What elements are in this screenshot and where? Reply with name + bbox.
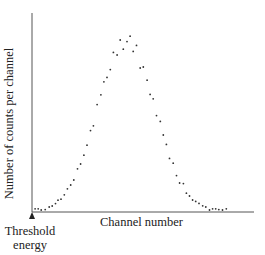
- data-point: [139, 67, 141, 69]
- data-point: [218, 209, 220, 211]
- data-point: [183, 183, 185, 185]
- data-point: [48, 206, 50, 208]
- data-point: [198, 203, 200, 205]
- data-point: [176, 175, 178, 177]
- data-point: [116, 54, 118, 56]
- data-point: [166, 144, 168, 146]
- data-point: [156, 115, 158, 117]
- data-point: [37, 208, 39, 210]
- data-point: [205, 206, 207, 208]
- data-point: [55, 203, 57, 205]
- data-point: [80, 163, 82, 165]
- data-point: [122, 48, 124, 50]
- data-point: [132, 51, 134, 53]
- data-point: [119, 39, 121, 41]
- data-point: [44, 209, 46, 211]
- data-point: [225, 208, 227, 210]
- data-point: [93, 125, 95, 127]
- data-point: [100, 94, 102, 96]
- data-point: [57, 199, 59, 201]
- data-point: [67, 188, 69, 190]
- data-point: [96, 104, 98, 106]
- data-point: [77, 168, 79, 170]
- data-point: [152, 98, 154, 100]
- data-point: [90, 130, 92, 132]
- data-point: [209, 209, 211, 211]
- data-point: [126, 41, 128, 43]
- data-point: [212, 208, 214, 210]
- data-point: [113, 52, 115, 54]
- data-point: [86, 144, 88, 146]
- threshold-arrow-icon: [29, 212, 35, 219]
- data-point: [169, 158, 171, 160]
- data-point: [172, 162, 174, 164]
- data-point: [186, 192, 188, 194]
- data-point: [129, 35, 131, 37]
- data-points: [34, 35, 227, 211]
- data-point: [159, 121, 161, 123]
- data-point: [103, 81, 105, 83]
- data-point: [195, 201, 197, 203]
- data-point: [51, 205, 53, 207]
- data-point: [189, 195, 191, 197]
- data-point: [215, 208, 217, 210]
- data-point: [40, 209, 42, 211]
- data-point: [73, 179, 75, 181]
- data-point: [162, 134, 164, 136]
- data-point: [83, 154, 85, 156]
- data-point: [179, 182, 181, 184]
- threshold-label-line1: Threshold: [0, 224, 60, 238]
- data-point: [63, 194, 65, 196]
- x-axis-label: Channel number: [100, 215, 183, 230]
- data-point: [146, 79, 148, 81]
- data-point: [222, 209, 224, 211]
- data-point: [149, 94, 151, 96]
- y-axis-label: Number of counts per channel: [2, 39, 17, 209]
- data-point: [109, 69, 111, 71]
- data-point: [142, 66, 144, 68]
- data-point: [70, 184, 72, 186]
- data-point: [60, 198, 62, 200]
- data-point: [202, 205, 204, 207]
- threshold-energy-label: Threshold energy: [0, 224, 60, 252]
- data-point: [106, 77, 108, 79]
- threshold-label-line2: energy: [0, 238, 60, 252]
- data-point: [192, 199, 194, 201]
- data-point: [136, 45, 138, 47]
- data-point: [34, 208, 36, 210]
